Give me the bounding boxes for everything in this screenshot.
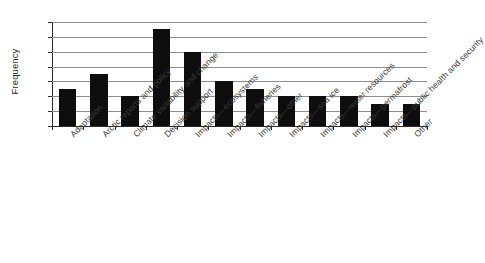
- x-tick-mark: [52, 126, 53, 130]
- gridline: [52, 67, 427, 68]
- y-tick-mark: [48, 111, 52, 112]
- y-tick-mark: [48, 22, 52, 23]
- y-tick-mark: [48, 81, 52, 82]
- gridline: [52, 22, 427, 23]
- y-tick-mark: [48, 37, 52, 38]
- bar: [59, 89, 77, 126]
- gridline: [52, 37, 427, 38]
- y-tick-mark: [48, 67, 52, 68]
- gridline: [52, 52, 427, 53]
- y-tick-mark: [48, 96, 52, 97]
- y-tick-mark: [48, 52, 52, 53]
- y-axis-title: Frequency: [9, 34, 20, 110]
